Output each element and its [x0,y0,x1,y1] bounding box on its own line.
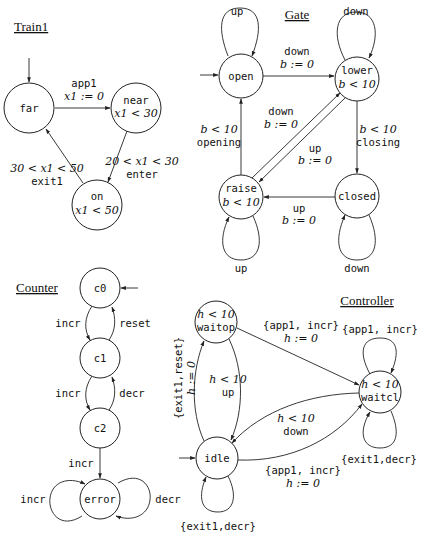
loop-raise-up [223,216,260,260]
train-automaton: Train1 app1 x1 := 0 20 < x1 < 30 enter 3… [4,19,179,230]
svg-text:on: on [91,190,104,202]
state-waitop: h < 10 waitop [195,301,237,343]
edge-c2-c1 [109,377,115,410]
train-title: Train1 [14,19,48,34]
controller-title: Controller [340,293,394,308]
svg-text:error: error [84,493,116,505]
label-waitop-idle-up: up [222,386,235,398]
state-c0: c0 [80,268,120,308]
svg-text:open: open [228,70,253,82]
svg-text:raise: raise [225,182,257,194]
svg-text:closed: closed [338,190,376,202]
loop-waitcl-exit1-decr [363,411,396,448]
label-waitcl-idle-guard: h < 10 [277,412,314,425]
label-open-up: up [231,5,244,17]
svg-text:b < 10: b < 10 [222,196,259,209]
label-waitop-waitcl: {app1, incr} [263,319,339,331]
svg-text:near: near [123,94,148,106]
label-waitcl-top-loop: {app1, incr} [342,323,418,335]
state-c2: c2 [80,408,120,448]
label-closed-down: down [344,262,369,274]
svg-text:c0: c0 [94,282,107,294]
svg-text:c2: c2 [94,422,107,434]
svg-text:x1 < 50: x1 < 50 [75,204,118,217]
state-raise: raise b < 10 [219,175,263,219]
label-c1-c2-incr: incr [55,387,80,399]
state-c1: c1 [80,338,120,378]
label-waitop-idle-guard: h < 10 [209,373,246,386]
edge-c1-c0 [109,307,115,340]
state-open: open [219,54,263,98]
svg-text:c1: c1 [94,352,107,364]
label-waitop-waitcl-reset: h := 0 [284,332,318,345]
svg-text:far: far [20,102,39,114]
loop-lower-down [337,12,375,60]
counter-title: Counter [16,280,59,295]
svg-text:b < 10: b < 10 [338,78,375,91]
label-waitcl-idle-down: down [283,425,308,437]
svg-text:waitcl: waitcl [361,391,399,403]
label-error-incr: incr [20,493,45,505]
state-idle: idle [196,437,238,479]
label-c0-c1-incr: incr [55,317,80,329]
gate-title: Gate [285,7,310,22]
state-lower: lower b < 10 [335,57,379,101]
gate-automaton: Gate up down b := 0 down b < 10 closing … [197,5,400,274]
label-enter: enter [126,168,158,180]
svg-text:x1 < 30: x1 < 30 [114,107,157,120]
label-raise-lower-reset: b := 0 [264,118,298,131]
state-on: on x1 < 50 [72,180,122,230]
state-far: far [4,83,54,133]
label-lower-raise-up: up [309,142,322,154]
label-lower-raise-reset: b := 0 [298,154,332,167]
label-raise-lower-down: down [268,105,293,117]
controller-automaton: Controller {exit1,reset} h := 0 h < 10 u… [172,293,418,532]
edge-c0-c1 [86,306,92,340]
label-idle-waitcl-reset: h := 0 [286,477,320,490]
label-idle-waitop-reset: h := 0 [185,361,198,395]
loop-waitcl-app1-incr [363,338,396,374]
label-opening: opening [197,136,241,148]
label-error-decr: decr [155,493,180,505]
svg-text:h < 10: h < 10 [197,308,234,321]
state-error: error [80,479,120,519]
label-exit1: exit1 [31,175,63,187]
loop-error-decr [116,478,150,518]
label-x1-reset: x1 := 0 [64,90,104,103]
label-idle-waitop: {exit1,reset} [172,337,184,419]
label-raise-up: up [235,262,248,274]
state-closed: closed [335,174,379,218]
svg-text:idle: idle [204,452,229,464]
label-guard-20-30: 20 < x1 < 30 [104,155,179,168]
loop-closed-down [339,215,376,260]
label-open-lower-reset: b := 0 [280,58,314,71]
state-waitcl: h < 10 waitcl [359,371,401,413]
label-decr: decr [119,387,144,399]
label-app1: app1 [71,77,96,89]
label-waitcl-bottom-loop: {exit1,decr} [341,453,417,465]
label-reset: reset [119,317,151,329]
label-raise-open-guard: b < 10 [200,123,237,136]
label-closing: closing [356,136,400,148]
counter-automaton: Counter incr reset incr decr incr incr d… [16,268,181,521]
label-idle-loop: {exit1,decr} [180,520,256,532]
label-lower-closed-guard: b < 10 [359,123,396,136]
timed-automata-diagram: Train1 app1 x1 := 0 20 < x1 < 30 enter 3… [0,0,423,540]
label-open-lower-down: down [284,45,309,57]
loop-idle-exit1-decr [202,476,234,512]
label-c2-error-incr: incr [68,457,93,469]
label-lower-down: down [343,5,368,17]
svg-text:h < 10: h < 10 [361,378,398,391]
state-near: near x1 < 30 [111,83,161,133]
svg-text:waitop: waitop [197,321,235,333]
label-closed-raise-up: up [293,202,306,214]
label-guard-30-50: 30 < x1 < 50 [10,162,84,175]
label-idle-waitcl: {app1, incr} [265,464,341,476]
edge-c1-c2 [86,376,92,410]
label-closed-raise-reset: b := 0 [282,214,316,227]
svg-text:lower: lower [341,64,373,76]
